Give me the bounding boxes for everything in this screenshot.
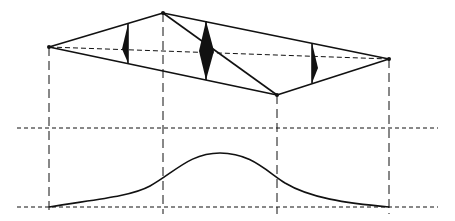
profile-curve: [49, 153, 389, 207]
geometric-projection-diagram: [0, 0, 455, 221]
diamond-marker: [199, 21, 214, 80]
node-C: [275, 93, 279, 97]
edges: [49, 13, 389, 95]
diamond-marker: [312, 43, 318, 83]
diamond-marker: [122, 24, 128, 63]
node-B: [161, 11, 165, 15]
node-D: [387, 57, 391, 61]
edge-AB: [49, 13, 163, 47]
edge-CD: [277, 59, 389, 95]
node-A: [47, 45, 51, 49]
horizontal-guides: [17, 128, 438, 207]
markers: [122, 21, 318, 83]
projection-lines: [49, 13, 389, 214]
